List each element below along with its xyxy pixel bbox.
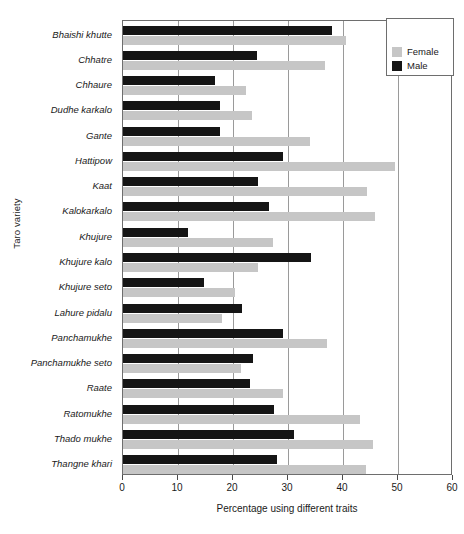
y-axis-tick-label: Kaat bbox=[92, 180, 112, 191]
y-axis-tick-label: Panchamukhe seto bbox=[31, 357, 112, 368]
bar-female bbox=[123, 314, 222, 323]
bar-male bbox=[123, 379, 250, 388]
bar-male bbox=[123, 152, 283, 161]
bar-male bbox=[123, 26, 332, 35]
bar-female bbox=[123, 86, 246, 95]
bar-male bbox=[123, 329, 283, 338]
bar-group bbox=[123, 324, 451, 349]
bar-female bbox=[123, 389, 283, 398]
x-axis-title: Percentage using different traits bbox=[122, 503, 452, 514]
legend: Female Male bbox=[386, 18, 454, 76]
y-axis-tick-label: Bhaishi khutte bbox=[52, 29, 112, 40]
bar-female bbox=[123, 212, 375, 221]
x-axis-tick bbox=[177, 475, 178, 480]
bar-group bbox=[123, 400, 451, 425]
bar-female bbox=[123, 111, 252, 120]
bar-male bbox=[123, 253, 311, 262]
y-axis-tick-labels: Bhaishi khutteChhatreChhaureDudhe karkal… bbox=[0, 20, 118, 475]
x-axis-tick bbox=[287, 475, 288, 480]
x-axis-tick-label: 60 bbox=[446, 482, 457, 493]
legend-swatch-female-icon bbox=[392, 47, 402, 57]
bar-female bbox=[123, 364, 241, 373]
bar-female bbox=[123, 263, 258, 272]
bar-group bbox=[123, 350, 451, 375]
bar-male bbox=[123, 76, 215, 85]
x-axis-tick bbox=[452, 475, 453, 480]
y-axis-tick-label: Chhaure bbox=[76, 79, 112, 90]
bar-chart: Taro variety Bhaishi khutteChhatreChhaur… bbox=[0, 0, 464, 534]
plot-area bbox=[122, 20, 452, 475]
y-axis-tick-label: Thangne khari bbox=[51, 458, 112, 469]
bar-male bbox=[123, 405, 274, 414]
x-axis-tick-label: 40 bbox=[336, 482, 347, 493]
legend-label-male: Male bbox=[407, 60, 428, 71]
x-axis-tick-label: 10 bbox=[171, 482, 182, 493]
y-axis-tick-label: Raate bbox=[87, 382, 112, 393]
bar-group bbox=[123, 122, 451, 147]
x-axis-tick bbox=[232, 475, 233, 480]
bar-group bbox=[123, 299, 451, 324]
bar-male bbox=[123, 101, 220, 110]
y-axis-tick-label: Thado mukhe bbox=[54, 433, 112, 444]
y-axis-tick-label: Dudhe karkalo bbox=[51, 104, 112, 115]
bar-group bbox=[123, 274, 451, 299]
bar-female bbox=[123, 339, 327, 348]
bar-female bbox=[123, 238, 273, 247]
bar-female bbox=[123, 288, 235, 297]
bars-layer bbox=[123, 21, 451, 474]
bar-male bbox=[123, 228, 188, 237]
y-axis-tick-label: Khujure kalo bbox=[59, 256, 112, 267]
x-axis-tick-label: 0 bbox=[119, 482, 125, 493]
bar-female bbox=[123, 415, 360, 424]
bar-group bbox=[123, 451, 451, 475]
bar-male bbox=[123, 430, 294, 439]
bar-group bbox=[123, 249, 451, 274]
x-axis-tick-label: 30 bbox=[281, 482, 292, 493]
bar-group bbox=[123, 147, 451, 172]
bar-female bbox=[123, 465, 366, 474]
legend-entry-female: Female bbox=[392, 45, 453, 58]
bar-group bbox=[123, 425, 451, 450]
x-axis-tick-label: 50 bbox=[391, 482, 402, 493]
y-axis-tick-label: Panchamukhe bbox=[51, 332, 112, 343]
bar-female bbox=[123, 440, 373, 449]
bar-group bbox=[123, 97, 451, 122]
bar-male bbox=[123, 202, 269, 211]
y-axis-tick-label: Hattipow bbox=[75, 155, 112, 166]
bar-male bbox=[123, 278, 204, 287]
y-axis-tick-label: Khujure seto bbox=[59, 281, 112, 292]
legend-swatch-male-icon bbox=[392, 61, 402, 71]
bar-group bbox=[123, 198, 451, 223]
x-axis-tick-labels: 0102030405060 bbox=[122, 482, 452, 496]
bar-female bbox=[123, 36, 346, 45]
bar-group bbox=[123, 173, 451, 198]
bar-female bbox=[123, 187, 367, 196]
y-axis-tick-label: Chhatre bbox=[78, 54, 112, 65]
x-axis-ticks bbox=[122, 475, 452, 481]
y-axis-tick-label: Lahure pidalu bbox=[54, 307, 112, 318]
bar-male bbox=[123, 177, 258, 186]
y-axis-tick-label: Kalokarkalo bbox=[62, 205, 112, 216]
bar-female bbox=[123, 137, 310, 146]
y-axis-tick-label: Khujure bbox=[79, 231, 112, 242]
y-axis-tick-label: Ratomukhe bbox=[63, 408, 112, 419]
bar-female bbox=[123, 162, 395, 171]
y-axis-tick-label: Gante bbox=[86, 130, 112, 141]
bar-female bbox=[123, 61, 325, 70]
x-axis-tick bbox=[397, 475, 398, 480]
x-axis-tick-label: 20 bbox=[226, 482, 237, 493]
bar-male bbox=[123, 304, 242, 313]
bar-male bbox=[123, 127, 220, 136]
bar-male bbox=[123, 51, 257, 60]
x-axis-tick bbox=[342, 475, 343, 480]
bar-group bbox=[123, 223, 451, 248]
legend-label-female: Female bbox=[407, 46, 439, 57]
bar-male bbox=[123, 455, 277, 464]
bar-group bbox=[123, 375, 451, 400]
bar-male bbox=[123, 354, 253, 363]
x-axis-tick bbox=[122, 475, 123, 480]
legend-entry-male: Male bbox=[392, 59, 453, 72]
